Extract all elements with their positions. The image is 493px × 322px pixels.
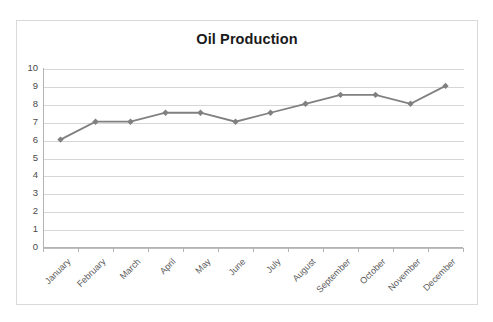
data-point-may: [197, 110, 203, 116]
data-point-september: [337, 92, 343, 98]
data-point-november: [407, 101, 413, 107]
data-point-june: [232, 119, 238, 125]
x-tick-4: [183, 248, 184, 252]
x-tick-8: [323, 248, 324, 252]
x-tick-1: [78, 248, 79, 252]
x-tick-6: [253, 248, 254, 252]
x-tick-3: [148, 248, 149, 252]
data-point-april: [162, 110, 168, 116]
data-point-january: [57, 136, 63, 142]
series-line: [61, 86, 446, 140]
data-point-august: [302, 101, 308, 107]
x-tick-12: [463, 248, 464, 252]
data-point-february: [92, 119, 98, 125]
x-tick-9: [358, 248, 359, 252]
data-point-july: [267, 110, 273, 116]
x-tick-2: [113, 248, 114, 252]
x-tick-11: [428, 248, 429, 252]
x-tick-7: [288, 248, 289, 252]
data-point-march: [127, 119, 133, 125]
x-tick-5: [218, 248, 219, 252]
x-tick-10: [393, 248, 394, 252]
oil-production-line-series: [0, 0, 493, 322]
x-tick-0: [43, 248, 44, 252]
data-point-december: [442, 83, 448, 89]
data-point-october: [372, 92, 378, 98]
